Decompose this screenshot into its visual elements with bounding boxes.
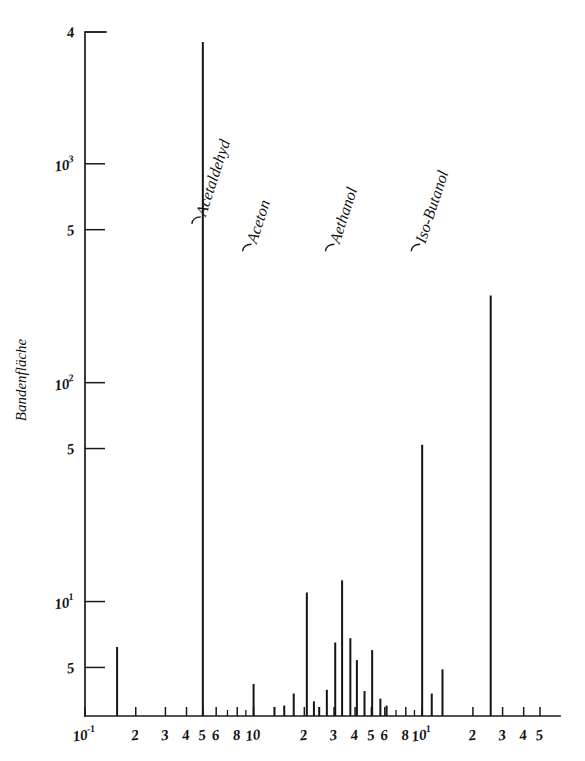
y-axis-title-text: Bandenfläche [13, 338, 29, 421]
x-tick-label-18: 5 [534, 727, 544, 744]
spike-plot: 10-1234568102345681012345 4103510251015 … [0, 0, 585, 761]
y-tick-label-3: 102 [53, 372, 75, 394]
annotation-leader-aethanol [325, 244, 334, 251]
y-axis-tick-labels: 4103510251015 [53, 24, 76, 676]
x-tick-label-7: 10 [244, 726, 262, 744]
y-tick-label-exponent-5: 1 [68, 591, 74, 603]
annotation-leader-iso-butanol [411, 244, 420, 251]
x-tick-label-10: 4 [349, 727, 360, 744]
annotation-leader-aceton [243, 244, 252, 251]
y-axis-title: Bandenfläche [13, 338, 29, 421]
axis-ticks [85, 32, 540, 716]
peak-annotations: AcetaldehydAcetonAethanolIso-Butanol [192, 136, 452, 251]
y-tick-label-4: 5 [66, 441, 76, 458]
y-tick-label-6: 5 [66, 659, 76, 676]
spike-series [117, 42, 491, 716]
x-tick-label-2: 3 [159, 727, 170, 744]
x-tick-label-exponent-14: 1 [425, 723, 431, 735]
annotation-label-aethanol: Aethanol [326, 184, 360, 246]
annotation-leader-acetaldehyd [192, 217, 201, 224]
y-tick-label-1: 103 [53, 153, 75, 175]
x-tick-label-11: 5 [366, 727, 376, 744]
figure-canvas: 10-1234568102345681012345 4103510251015 … [0, 0, 585, 761]
y-tick-label-2: 5 [66, 222, 76, 239]
y-tick-label-exponent-3: 2 [67, 372, 74, 384]
x-tick-label-13: 8 [400, 727, 410, 744]
y-tick-label-exponent-1: 3 [67, 153, 74, 165]
annotation-label-aceton: Aceton [243, 198, 273, 246]
x-tick-label-14: 101 [410, 723, 432, 745]
annotation-label-acetaldehyd: Acetaldehyd [192, 136, 234, 219]
x-axis-tick-labels: 10-1234568102345681012345 [71, 723, 544, 745]
x-tick-label-1: 2 [129, 727, 140, 744]
x-tick-label-8: 2 [298, 727, 309, 744]
x-tick-label-exponent-0: -1 [86, 723, 96, 735]
x-tick-label-3: 4 [180, 727, 191, 744]
x-tick-label-0: 10-1 [71, 723, 97, 745]
x-tick-label-4: 5 [197, 727, 207, 744]
y-tick-label-5: 101 [53, 591, 75, 613]
x-tick-label-16: 3 [496, 727, 507, 744]
y-tick-label-0: 4 [65, 24, 76, 41]
x-tick-label-15: 2 [466, 727, 477, 744]
axes [85, 32, 560, 716]
x-tick-label-9: 3 [328, 727, 339, 744]
annotation-label-iso-butanol: Iso-Butanol [412, 168, 452, 247]
x-tick-label-6: 8 [232, 727, 242, 744]
x-tick-label-12: 6 [379, 727, 389, 744]
x-tick-label-5: 6 [211, 727, 221, 744]
x-tick-label-17: 4 [517, 727, 528, 744]
